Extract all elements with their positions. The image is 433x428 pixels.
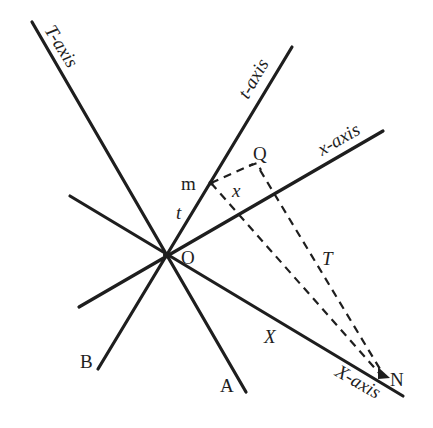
X-axis-label: X-axis	[331, 360, 384, 403]
spacetime-diagram: T-axis t-axis x-axis X-axis m Q O N A B …	[0, 0, 433, 428]
N-arrowhead-icon	[378, 367, 390, 379]
m-to-N-dashed-line	[211, 183, 380, 374]
B-label: B	[80, 351, 93, 372]
t-axis-label: t-axis	[233, 55, 272, 102]
x-axis-label: x-axis	[313, 119, 364, 160]
diagram-svg: T-axis t-axis x-axis X-axis m Q O N A B …	[0, 0, 433, 428]
m-label: m	[181, 173, 196, 194]
origin-label: O	[181, 247, 195, 268]
m-point	[209, 181, 214, 186]
origin-point	[163, 252, 169, 258]
T-segment-label: T	[322, 248, 334, 269]
t-axis-line	[98, 47, 292, 369]
N-label: N	[390, 369, 404, 390]
A-label: A	[220, 375, 234, 396]
t-segment-label: t	[176, 202, 182, 223]
X-segment-label: X	[263, 326, 277, 347]
T-axis-line	[32, 22, 246, 392]
x-segment-label: x	[231, 180, 241, 201]
Q-label: Q	[253, 143, 267, 164]
Q-to-N-dashed-line	[260, 170, 383, 374]
x-axis-line	[79, 131, 383, 307]
